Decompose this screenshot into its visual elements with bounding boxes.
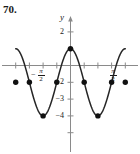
axis-arrows	[68, 16, 73, 22]
marked-point-2	[40, 113, 45, 118]
x-tick-label-neg-pi-over-2: − π 2	[32, 68, 50, 83]
marked-point-5	[82, 80, 87, 85]
y-axis-label: y	[60, 12, 64, 22]
y-tick-label-neg3: −3	[50, 94, 64, 103]
fraction-numerator: π	[104, 68, 122, 75]
x-tick-label-pi-over-2: π 2	[104, 68, 122, 83]
marked-point-0	[13, 80, 18, 85]
y-tick-label-neg4: −4	[50, 111, 64, 120]
minus-sign: −	[31, 71, 36, 79]
y-tick-label-neg2: −2	[50, 77, 64, 86]
y-tick-label-2: 2	[50, 27, 64, 36]
marked-point-8	[123, 80, 128, 85]
marked-point-4	[68, 46, 73, 51]
y-axis-arrow-up	[68, 16, 73, 22]
fraction-denominator: 2	[104, 76, 122, 83]
axis-lines	[2, 18, 138, 152]
marked-point-6	[95, 113, 100, 118]
